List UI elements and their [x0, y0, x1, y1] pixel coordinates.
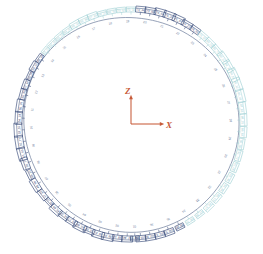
- component-block-label: 54_18: [17, 113, 21, 122]
- component-block-label: 89_64: [240, 128, 245, 137]
- component-block-label: 71_11: [127, 8, 135, 12]
- ring-layout-figure: 0102030405060708091011121314151617181920…: [0, 0, 263, 254]
- z-axis-label: Z: [124, 86, 131, 96]
- ring-tick-label: 10: [29, 126, 33, 130]
- ring-tick-label: 28: [229, 119, 233, 123]
- component-block-label: 104_28: [130, 236, 140, 240]
- ring-tick-label: 19: [126, 19, 130, 23]
- ring-diagram-canvas: 0102030405060708091011121314151617181920…: [0, 0, 263, 254]
- ring-tick-label: 01: [132, 225, 136, 229]
- component-block-label: 70_63: [117, 8, 126, 13]
- figure-background: [0, 0, 263, 254]
- component-block-label: 88_25: [240, 116, 244, 125]
- component-block-label: 72_44: [136, 8, 145, 13]
- x-axis-label: X: [165, 120, 173, 130]
- component-block-label: 53_55: [17, 125, 21, 134]
